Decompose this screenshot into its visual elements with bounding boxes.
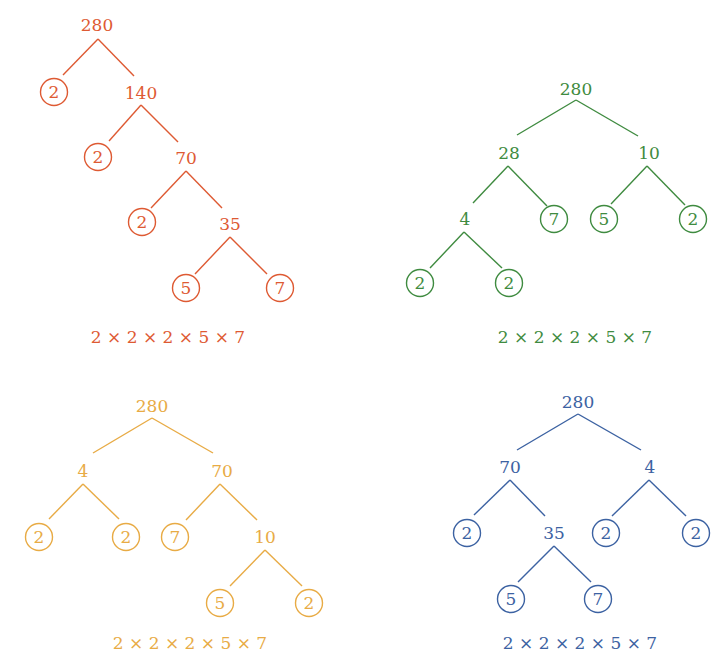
tree-edge bbox=[578, 414, 641, 450]
tree-edge bbox=[508, 166, 547, 206]
composite-node: 10 bbox=[254, 527, 276, 547]
tree-edge bbox=[510, 480, 545, 516]
prime-factorization-formula: 2 × 2 × 2 × 5 × 7 bbox=[503, 633, 657, 653]
prime-factor-node: 2 bbox=[691, 523, 702, 543]
tree-edge bbox=[649, 480, 686, 516]
tree-blue: 28070423522572 × 2 × 2 × 5 × 7 bbox=[454, 392, 710, 653]
tree-edge bbox=[576, 100, 638, 136]
prime-factor-node: 2 bbox=[121, 527, 132, 547]
tree-edge bbox=[141, 105, 178, 142]
tree-edge bbox=[83, 484, 119, 519]
prime-factor-node: 2 bbox=[601, 523, 612, 543]
tree-edge bbox=[220, 484, 257, 520]
tree-edge bbox=[517, 414, 578, 450]
prime-factor-node: 5 bbox=[215, 593, 226, 613]
prime-factor-node: 5 bbox=[506, 589, 517, 609]
tree-edge bbox=[517, 100, 576, 135]
composite-node: 4 bbox=[645, 457, 656, 477]
prime-factor-node: 5 bbox=[181, 278, 192, 298]
diagram-svg: 2802140270235572 × 2 × 2 × 5 × 728028104… bbox=[0, 0, 725, 670]
tree-edge bbox=[63, 39, 98, 75]
composite-node: 280 bbox=[560, 79, 592, 99]
composite-node: 280 bbox=[136, 396, 168, 416]
prime-factor-node: 2 bbox=[462, 523, 473, 543]
composite-node: 28 bbox=[498, 143, 520, 163]
prime-factorization-formula: 2 × 2 × 2 × 5 × 7 bbox=[113, 633, 267, 653]
tree-red: 2802140270235572 × 2 × 2 × 5 × 7 bbox=[41, 15, 294, 347]
tree-edge bbox=[265, 550, 302, 586]
tree-edge bbox=[98, 39, 134, 76]
tree-edge bbox=[93, 418, 152, 453]
prime-factor-node: 2 bbox=[504, 273, 515, 293]
tree-yellow: 28047022710522 × 2 × 2 × 5 × 7 bbox=[26, 396, 323, 653]
composite-node: 70 bbox=[211, 461, 233, 481]
tree-edge bbox=[230, 237, 267, 274]
prime-factor-node: 2 bbox=[49, 82, 60, 102]
composite-node: 35 bbox=[543, 523, 565, 543]
composite-node: 280 bbox=[562, 392, 594, 412]
prime-factor-node: 7 bbox=[275, 278, 286, 298]
composite-node: 280 bbox=[81, 15, 113, 35]
tree-edge bbox=[49, 484, 83, 519]
prime-factor-node: 2 bbox=[688, 209, 699, 229]
tree-edge bbox=[554, 546, 591, 582]
tree-edge bbox=[151, 171, 186, 208]
tree-edge bbox=[186, 171, 222, 208]
prime-factor-node: 2 bbox=[137, 212, 148, 232]
tree-edge bbox=[230, 550, 265, 586]
tree-edge bbox=[195, 237, 230, 274]
composite-node: 70 bbox=[175, 148, 197, 168]
prime-factor-node: 5 bbox=[599, 209, 610, 229]
tree-edge bbox=[612, 480, 649, 516]
composite-node: 140 bbox=[125, 83, 157, 103]
prime-factor-node: 7 bbox=[593, 589, 604, 609]
tree-edge bbox=[474, 480, 510, 515]
prime-factor-node: 7 bbox=[549, 209, 560, 229]
factor-trees-diagram: Factor trees of 280 2802140270235572 × 2… bbox=[0, 0, 725, 670]
tree-edge bbox=[430, 232, 464, 268]
tree-edge bbox=[611, 166, 647, 204]
prime-factor-node: 2 bbox=[34, 527, 45, 547]
tree-edge bbox=[109, 105, 141, 141]
prime-factor-node: 7 bbox=[170, 527, 181, 547]
tree-edge bbox=[473, 166, 508, 203]
tree-green: 28028104752222 × 2 × 2 × 5 × 7 bbox=[407, 79, 707, 347]
tree-edge bbox=[464, 232, 502, 268]
composite-node: 4 bbox=[78, 461, 89, 481]
composite-node: 35 bbox=[219, 214, 241, 234]
prime-factorization-formula: 2 × 2 × 2 × 5 × 7 bbox=[91, 327, 245, 347]
tree-edge bbox=[152, 418, 213, 453]
composite-node: 10 bbox=[638, 143, 660, 163]
composite-node: 4 bbox=[460, 209, 471, 229]
tree-edge bbox=[186, 484, 220, 520]
prime-factorization-formula: 2 × 2 × 2 × 5 × 7 bbox=[498, 327, 652, 347]
prime-factor-node: 2 bbox=[304, 593, 315, 613]
prime-factor-node: 2 bbox=[415, 273, 426, 293]
tree-edge bbox=[647, 166, 685, 205]
composite-node: 70 bbox=[499, 457, 521, 477]
prime-factor-node: 2 bbox=[93, 147, 104, 167]
tree-edge bbox=[518, 546, 554, 582]
